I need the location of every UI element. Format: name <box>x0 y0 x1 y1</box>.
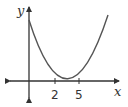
parabola-curve <box>29 15 108 79</box>
x-axis-label: x <box>114 84 122 99</box>
tick-label-2: 2 <box>51 88 59 102</box>
y-axis-label: y <box>16 3 25 18</box>
parabola-graph: y x 2 5 <box>0 0 128 107</box>
tick-label-5: 5 <box>75 88 83 102</box>
